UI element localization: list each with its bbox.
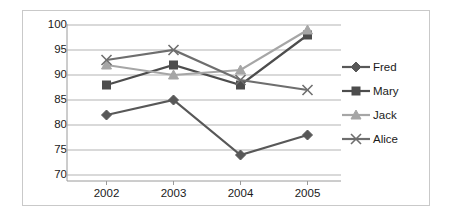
legend-item-fred[interactable]: Fred (341, 55, 427, 79)
x-tick-label-2005: 2005 (278, 187, 338, 199)
x-tick-label-2003: 2003 (144, 187, 204, 199)
legend-item-jack[interactable]: Jack (341, 103, 427, 127)
legend-marker-triangle-icon (341, 107, 371, 123)
x-tick-label-2002: 2002 (77, 187, 137, 199)
legend-item-alice[interactable]: Alice (341, 127, 427, 151)
legend-marker-diamond-icon (341, 59, 371, 75)
x-tick-label-2004: 2004 (211, 187, 271, 199)
legend-marker-cross-icon (341, 131, 371, 147)
chart-frame: 100959085807570 2002200320042005 FredMar… (22, 10, 430, 206)
x-axis: 2002200320042005 (73, 11, 363, 207)
legend-label-alice: Alice (371, 133, 398, 145)
chart-legend: FredMaryJackAlice (341, 55, 427, 151)
legend-label-mary: Mary (371, 85, 399, 97)
legend-marker-square-icon (341, 83, 371, 99)
plot-area: 100959085807570 2002200320042005 FredMar… (23, 11, 431, 207)
legend-label-fred: Fred (371, 61, 397, 73)
legend-label-jack: Jack (371, 109, 397, 121)
legend-item-mary[interactable]: Mary (341, 79, 427, 103)
